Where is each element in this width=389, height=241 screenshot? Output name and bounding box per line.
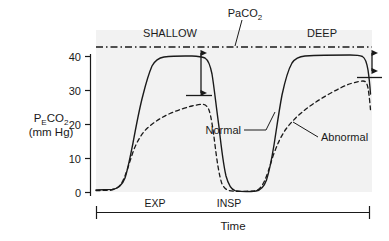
plot-background (96, 30, 372, 192)
y-tick-label-40: 40 (69, 51, 81, 63)
svg-text:PECO2: PECO2 (34, 112, 69, 127)
y-axis (85, 54, 91, 196)
paco2-label: PaCO2 (228, 7, 263, 22)
y-tick-label-10: 10 (69, 153, 81, 165)
capnogram-figure: 40 30 20 10 0 PECO2 (mm Hg) PaCO2 SHALLO… (0, 0, 389, 241)
y-tick-label-0: 0 (75, 187, 81, 199)
y-axis-title-units: (mm Hg) (29, 126, 74, 138)
y-tick-label-30: 30 (69, 85, 81, 97)
y-axis-title-CO: CO (47, 112, 64, 124)
shallow-label: SHALLOW (143, 27, 197, 39)
normal-label: Normal (206, 124, 241, 136)
deep-label: DEEP (307, 27, 337, 39)
x-axis-title: Time (220, 220, 245, 232)
exp-label: EXP (144, 197, 165, 209)
abnormal-label: Abnormal (321, 131, 368, 143)
insp-label: INSP (217, 197, 242, 209)
y-axis-title: PECO2 (mm Hg) (29, 112, 74, 138)
